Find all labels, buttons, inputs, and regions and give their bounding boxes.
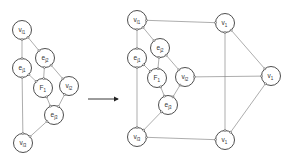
edge-vl2-ej3 [58,94,64,106]
port-dot [27,36,29,38]
port-dot [145,136,147,138]
right-nodes: vl1ej2ej1F1vl2ej3vl3v1v1v1 [128,11,281,150]
port-dot [215,139,217,141]
edge-ej3-vl3 [144,112,162,130]
edge-ej3-vl3 [30,121,47,136]
edge-ej2-vl2 [166,55,179,70]
port-dot [160,111,162,113]
edge-v1right-v1bottom [231,84,266,133]
port-dot [143,129,145,131]
edge-F1-ej3 [161,87,165,96]
edge-vl1-ej2 [143,27,154,40]
port-dot [46,120,48,122]
port-dot [136,67,138,69]
node-v1bottom: v1 [216,131,235,150]
port-dot [46,96,48,98]
port-dot [179,84,181,86]
port-dot [230,131,232,133]
port-dot [21,39,23,41]
port-dot [35,80,37,82]
port-dot [29,136,31,138]
edge-vl1-v1top [146,20,215,22]
port-dot [264,83,266,85]
port-dot [57,106,59,108]
edge-F1-ej3 [47,97,51,106]
port-dot [163,95,165,97]
port-dot [224,32,226,34]
port-dot [145,19,147,21]
port-dot [21,58,23,60]
edge-ej2-vl2 [51,65,63,79]
port-dot [43,66,45,68]
port-dot [215,22,217,24]
edge-ej2-F1 [158,57,159,68]
left-graph: vl1ej2ej1F1vl2ej3vl3 [13,21,79,153]
edge-vl3-v1bottom [146,137,215,139]
graph-transformation-diagram: vl1ej2ej1F1vl2ej3vl3 vl1ej2ej1F1vl2ej3vl… [0,0,289,164]
port-dot [22,133,24,135]
edge-ej2-F1 [44,67,45,78]
port-dot [143,64,145,66]
edge-ej1-F1 [144,65,151,72]
edge-vl2-v1right [194,76,261,77]
edge-v1top-v1right [231,30,265,69]
port-dot [158,56,160,58]
port-dot [49,105,51,107]
port-dot [136,29,138,31]
port-dot [28,74,30,76]
port-dot [224,130,226,132]
port-dot [64,93,66,95]
port-dot [261,75,263,77]
edge-ej1-F1 [29,75,36,82]
port-dot [149,70,151,72]
port-dot [136,127,138,129]
port-dot [230,29,232,31]
port-dot [50,64,52,66]
port-dot [43,78,45,80]
port-dot [142,26,144,28]
port-dot [193,76,195,78]
port-dot [157,68,159,70]
port-dot [172,96,174,98]
port-dot [38,50,40,52]
port-dot [153,40,155,42]
port-dot [264,68,266,70]
port-dot [165,54,167,56]
port-dot [62,78,64,80]
port-dot [178,69,180,71]
port-dot [21,76,23,78]
right-graph: vl1ej2ej1F1vl2ej3vl3v1v1v1 [128,11,281,150]
edge-vl1-ej2 [28,37,39,50]
edge-vl2-ej3 [173,85,180,97]
port-dot [136,48,138,50]
port-dot [160,86,162,88]
edge-ej1-vl3 [22,77,23,133]
